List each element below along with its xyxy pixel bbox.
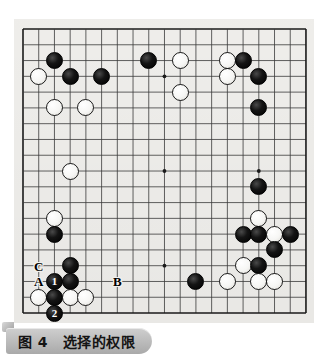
star-point <box>163 74 167 78</box>
go-stone-black[interactable] <box>250 68 267 85</box>
go-stone-white[interactable] <box>77 289 94 306</box>
figure-caption-text: 图 4 选择的权限 <box>6 331 151 351</box>
go-stone-white[interactable] <box>30 68 47 85</box>
figure-caption-bar: 图 4 选择的权限 <box>6 328 152 354</box>
go-stone-black[interactable]: 2 <box>46 305 63 322</box>
go-stone-white[interactable] <box>62 289 79 306</box>
go-point-marker-a: A <box>34 275 43 288</box>
go-stone-black[interactable] <box>46 52 63 69</box>
go-board-surface: 12 CAB <box>0 0 328 359</box>
star-point <box>257 169 261 173</box>
go-stone-white[interactable] <box>219 52 236 69</box>
star-point <box>163 264 167 268</box>
go-stone-black[interactable] <box>250 226 267 243</box>
go-stone-black[interactable] <box>282 226 299 243</box>
star-point <box>163 169 167 173</box>
go-stone-white[interactable] <box>235 257 252 274</box>
go-point-marker-c: C <box>34 259 43 272</box>
go-stone-black[interactable] <box>93 68 110 85</box>
go-stone-black[interactable] <box>62 257 79 274</box>
go-stone-white[interactable] <box>30 289 47 306</box>
go-stone-white[interactable] <box>62 163 79 180</box>
go-stone-white[interactable] <box>219 273 236 290</box>
go-stone-white[interactable] <box>172 52 189 69</box>
go-stone-black[interactable] <box>62 273 79 290</box>
go-stone-move-number: 2 <box>47 306 62 321</box>
go-stone-white[interactable] <box>46 210 63 227</box>
go-stone-black[interactable]: 1 <box>46 273 63 290</box>
go-stone-white[interactable] <box>219 68 236 85</box>
go-stone-white[interactable] <box>172 84 189 101</box>
go-stone-black[interactable] <box>235 52 252 69</box>
go-stone-move-number: 1 <box>47 274 62 289</box>
go-stone-black[interactable] <box>46 226 63 243</box>
go-stone-black[interactable] <box>46 289 63 306</box>
go-stone-white[interactable] <box>266 273 283 290</box>
go-figure: 12 CAB 图 4 选择的权限 <box>0 0 328 359</box>
go-point-marker-b: B <box>113 275 122 288</box>
go-stone-black[interactable] <box>62 68 79 85</box>
go-stone-black[interactable] <box>235 226 252 243</box>
go-stone-white[interactable] <box>266 226 283 243</box>
